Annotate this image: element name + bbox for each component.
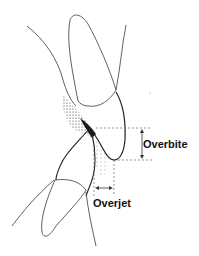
lower-gum-left [12,180,54,226]
overjet-label: Overjet [93,198,131,209]
upper-incisor-root [69,15,116,106]
teeth-illustration [0,0,199,256]
lower-incisor-root [42,179,86,236]
upper-gum-right [116,25,126,90]
overbite-label: Overbite [143,139,188,150]
lower-incisor-labial [56,128,90,180]
dental-occlusion-diagram: Overbite Overjet [0,0,199,256]
